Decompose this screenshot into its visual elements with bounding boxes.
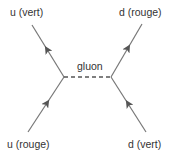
label-d-vert: d (vert) (128, 138, 161, 150)
label-gluon: gluon (77, 60, 103, 72)
diagram-canvas (0, 0, 175, 156)
u-rouge-fermion-line (28, 77, 64, 132)
feynman-diagram: u (vert) d (rouge) gluon u (rouge) d (ve… (0, 0, 175, 156)
d-vert-fermion-line (111, 77, 146, 132)
label-u-vert: u (vert) (10, 6, 43, 18)
label-u-rouge: u (rouge) (7, 138, 50, 150)
d-rouge-fermion-line (111, 24, 142, 77)
u-vert-fermion-line (32, 25, 64, 77)
label-d-rouge: d (rouge) (119, 6, 162, 18)
